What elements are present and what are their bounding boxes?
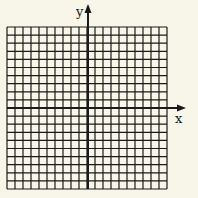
x-axis-label: x	[175, 111, 183, 126]
coordinate-grid: y x	[0, 0, 198, 198]
y-axis-label: y	[75, 4, 84, 19]
y-axis-arrow-icon	[85, 4, 92, 13]
